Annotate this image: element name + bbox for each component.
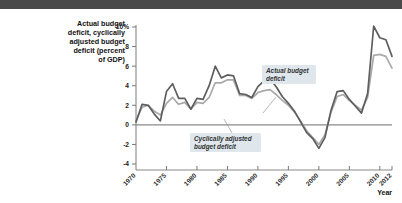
x-tick-label: 1975 [152,172,168,188]
callout-cyclical-line-0: Cyclically adjusted [194,135,253,143]
x-axis-name: Year [377,189,392,196]
y-axis-title-line-2: adjusted budget [69,37,125,46]
y-tick-label: 10% [116,23,129,30]
x-tick-label: 1990 [243,172,259,188]
x-tick-label: 1995 [274,172,290,188]
y-tick-label: 0 [125,121,129,128]
window-top-bar [0,0,402,9]
y-tick-label: 2 [125,102,129,109]
callout-actual-line-0: Actual budget [265,67,309,75]
x-tick-label: 2000 [304,172,320,188]
x-tick-label: 1985 [213,172,229,188]
callout-cyclical-line-1: budget deficit [194,143,237,151]
x-tick-label: 1980 [182,172,198,188]
chart-figure: Actual budget deficit, cyclically adjust… [0,9,402,203]
x-tick-label: 2005 [335,172,351,188]
y-axis-title-line-4: of GDP) [98,55,125,64]
callout-cyclical-leader-line [224,119,232,133]
callout-actual-leader-line [263,97,276,113]
x-tick-label: 2010 [365,172,381,188]
callout-cyclically-adjusted-budget-deficit: Cyclically adjusted budget deficit [190,119,261,152]
y-tick-label: 4 [125,82,129,89]
x-tick-label: 2012 [377,172,393,188]
y-tick-label: -2 [123,141,129,148]
y-axis-title-line-3: deficit (percent [73,46,125,55]
x-axis-ticks: 1970197519801985199019952000200520102012 [121,166,393,187]
chart-axes [136,25,392,170]
y-tick-label: 6 [125,63,129,70]
budget-deficit-line-chart: Actual budget deficit, cyclically adjust… [0,9,402,203]
y-tick-label: 8 [125,43,129,50]
chart-series [136,26,392,148]
y-tick-label: -4 [123,160,129,167]
callout-actual-line-1: deficit [266,75,286,82]
series-line-actual-budget-deficit [136,26,392,148]
x-tick-label: 1970 [121,172,137,188]
